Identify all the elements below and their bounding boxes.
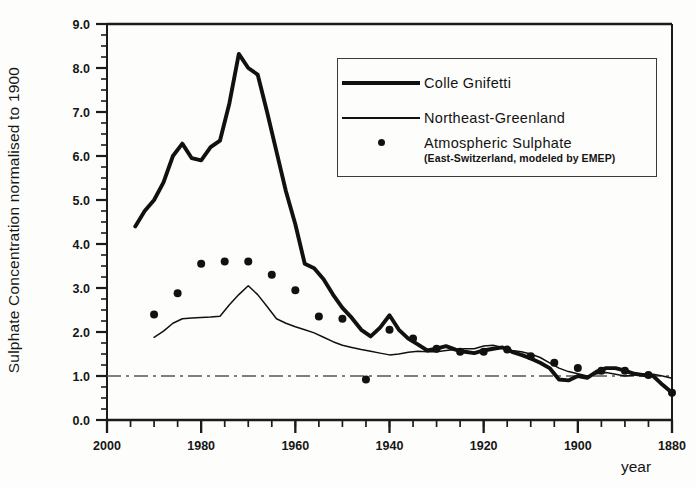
y-tick-label: 6.0: [73, 150, 90, 164]
series-point-atmospheric-sulphate: [456, 348, 464, 356]
series-line-northeast-greenland: [154, 286, 672, 378]
y-tick-label: 2.0: [73, 326, 90, 340]
legend-label-colle-gnifetti: Colle Gnifetti: [424, 75, 511, 91]
x-tick-label: 1920: [470, 439, 498, 453]
legend-item-colle-gnifetti[interactable]: Colle Gnifetti: [338, 67, 656, 99]
x-axis-title: year: [621, 458, 651, 475]
series-point-atmospheric-sulphate: [409, 335, 417, 343]
series-point-atmospheric-sulphate: [291, 286, 299, 294]
y-tick-label: 8.0: [73, 62, 90, 76]
legend-sublabel-atmospheric-sulphate: (East-Switzerland, modeled by EMEP): [424, 152, 615, 164]
series-point-atmospheric-sulphate: [221, 258, 229, 266]
series-point-atmospheric-sulphate: [574, 364, 582, 372]
series-point-atmospheric-sulphate: [550, 359, 558, 367]
legend-key-dot-marker: [338, 135, 424, 146]
y-tick-label: 7.0: [73, 106, 90, 120]
x-tick-label: 1980: [187, 439, 215, 453]
series-point-atmospheric-sulphate: [597, 367, 605, 375]
chart-legend: Colle Gnifetti Northeast-Greenland Atmos…: [337, 58, 657, 177]
series-point-atmospheric-sulphate: [268, 271, 276, 279]
series-point-atmospheric-sulphate: [503, 346, 511, 354]
legend-key-thick-line: [338, 81, 424, 85]
x-tick-label: 1940: [376, 439, 404, 453]
y-tick-label: 0.0: [73, 414, 90, 428]
series-point-atmospheric-sulphate: [338, 315, 346, 323]
series-point-atmospheric-sulphate: [150, 310, 158, 318]
series-point-atmospheric-sulphate: [621, 367, 629, 375]
series-point-atmospheric-sulphate: [433, 345, 441, 353]
series-point-atmospheric-sulphate: [174, 289, 182, 297]
series-point-atmospheric-sulphate: [644, 371, 652, 379]
chart-figure: Sulphate Concentration normalised to 190…: [0, 0, 696, 487]
series-point-atmospheric-sulphate: [386, 326, 394, 334]
y-tick-label: 5.0: [73, 194, 90, 208]
legend-item-northeast-greenland[interactable]: Northeast-Greenland: [338, 102, 656, 134]
legend-label-northeast-greenland: Northeast-Greenland: [424, 110, 565, 126]
x-tick-label: 2000: [93, 439, 121, 453]
legend-item-atmospheric-sulphate[interactable]: Atmospheric Sulphate (East-Switzerland, …: [338, 135, 656, 171]
y-tick-label: 4.0: [73, 238, 90, 252]
legend-label-atmospheric-sulphate: Atmospheric Sulphate: [424, 135, 615, 151]
y-tick-label: 3.0: [73, 282, 90, 296]
series-point-atmospheric-sulphate: [315, 313, 323, 321]
series-point-atmospheric-sulphate: [668, 389, 676, 397]
x-tick-label: 1960: [281, 439, 309, 453]
series-point-atmospheric-sulphate: [244, 258, 252, 266]
series-point-atmospheric-sulphate: [527, 352, 535, 360]
legend-key-thin-line: [338, 117, 424, 119]
series-point-atmospheric-sulphate: [480, 348, 488, 356]
y-tick-label: 9.0: [73, 18, 90, 32]
series-point-atmospheric-sulphate: [362, 376, 370, 384]
y-tick-label: 1.0: [73, 370, 90, 384]
x-tick-label: 1880: [658, 439, 686, 453]
series-point-atmospheric-sulphate: [197, 260, 205, 268]
x-tick-label: 1900: [564, 439, 592, 453]
